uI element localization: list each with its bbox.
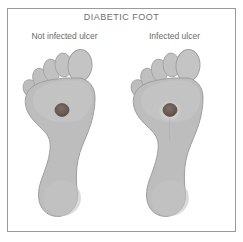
ulcer-infected [163, 104, 177, 117]
heel-shading [151, 180, 189, 216]
panel-label-infected: Infected ulcer [122, 31, 227, 41]
foot-illustration-not-infected [18, 48, 108, 220]
figure-title: DIABETIC FOOT [0, 12, 243, 22]
heel-shading [43, 180, 81, 216]
ulcer-not-infected [55, 104, 69, 117]
foot-illustration-infected [126, 48, 216, 220]
toe-hallux [175, 49, 201, 83]
diabetic-foot-figure: DIABETIC FOOT Not infected ulcer Infecte… [0, 0, 243, 242]
toe-hallux [67, 49, 93, 83]
panel-label-not-infected: Not infected ulcer [12, 31, 117, 41]
